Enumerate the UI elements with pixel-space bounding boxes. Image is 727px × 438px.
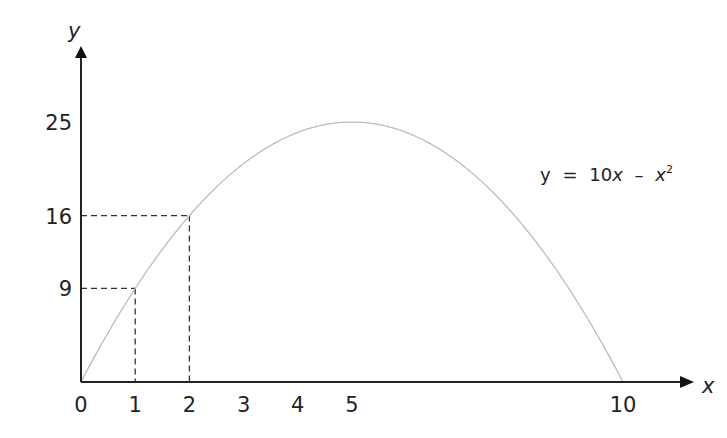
y-tick-label: 16 bbox=[45, 205, 72, 229]
chart: y x 01234510 91625 y = 10x – x2 bbox=[0, 0, 727, 438]
x-tick-label: 3 bbox=[237, 393, 250, 417]
parabola-curve bbox=[81, 122, 623, 382]
equation-label: y = 10x – x2 bbox=[540, 163, 673, 185]
x-tick-label: 1 bbox=[129, 393, 142, 417]
y-axis-arrow-icon bbox=[75, 46, 87, 58]
guide-lines bbox=[81, 216, 189, 382]
x-tick-label: 5 bbox=[345, 393, 358, 417]
y-axis-label: y bbox=[67, 19, 81, 43]
x-axis-arrow-icon bbox=[680, 376, 694, 388]
x-tick-label: 10 bbox=[610, 393, 637, 417]
x-tick-label: 0 bbox=[74, 393, 87, 417]
y-tick-label: 25 bbox=[45, 111, 72, 135]
y-tick-label: 9 bbox=[59, 277, 72, 301]
y-tick-labels: 91625 bbox=[45, 111, 72, 301]
x-tick-labels: 01234510 bbox=[74, 393, 636, 417]
x-tick-label: 4 bbox=[291, 393, 304, 417]
x-tick-label: 2 bbox=[183, 393, 196, 417]
x-axis-label: x bbox=[701, 374, 715, 398]
